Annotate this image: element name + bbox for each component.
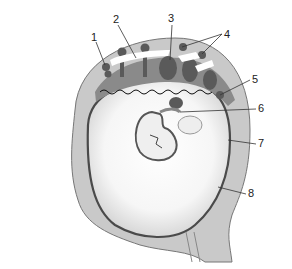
label-1: 1 (91, 32, 97, 43)
yolk-sac (178, 116, 202, 134)
label-7: 7 (258, 138, 264, 149)
label-4: 4 (224, 29, 230, 40)
label-3: 3 (168, 13, 174, 24)
label-5: 5 (252, 74, 258, 85)
diagram-illustration (0, 0, 292, 269)
label-2: 2 (113, 14, 119, 25)
label-8: 8 (248, 188, 254, 199)
label-6: 6 (258, 103, 264, 114)
embryo-uterus-diagram: 1 2 3 4 5 6 7 8 (0, 0, 292, 269)
